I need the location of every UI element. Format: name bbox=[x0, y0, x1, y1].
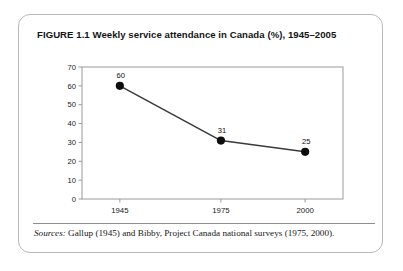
y-axis-tick-label: 30 bbox=[68, 138, 76, 147]
data-line-series bbox=[120, 86, 305, 152]
data-point-marker[interactable] bbox=[116, 82, 124, 90]
data-point-label: 60 bbox=[117, 71, 125, 80]
source-label: Sources: bbox=[34, 228, 66, 238]
source-divider bbox=[33, 223, 375, 224]
line-chart-svg: 010203040506070194519752000603125 bbox=[19, 15, 384, 254]
figure-card: FIGURE 1.1 Weekly service attendance in … bbox=[18, 14, 383, 253]
source-text: Gallup (1945) and Bibby, Project Canada … bbox=[66, 228, 335, 238]
data-point-marker[interactable] bbox=[217, 136, 225, 144]
x-axis-tick-label: 2000 bbox=[296, 206, 314, 215]
y-axis-tick-label: 20 bbox=[68, 157, 76, 166]
data-point-marker[interactable] bbox=[301, 148, 309, 156]
y-axis-tick-label: 10 bbox=[68, 176, 76, 185]
chart-plot-area: 010203040506070194519752000603125 bbox=[19, 15, 384, 254]
data-point-label: 25 bbox=[302, 137, 310, 146]
data-point-label: 31 bbox=[218, 126, 226, 135]
y-axis-tick-label: 50 bbox=[68, 100, 76, 109]
y-axis-tick-label: 70 bbox=[68, 63, 76, 72]
x-axis-tick-label: 1945 bbox=[111, 206, 129, 215]
x-axis-tick-label: 1975 bbox=[212, 206, 230, 215]
y-axis-tick-label: 40 bbox=[68, 119, 76, 128]
y-axis-tick-label: 0 bbox=[72, 195, 76, 204]
source-note: Sources: Gallup (1945) and Bibby, Projec… bbox=[34, 228, 376, 238]
y-axis-tick-label: 60 bbox=[68, 82, 76, 91]
